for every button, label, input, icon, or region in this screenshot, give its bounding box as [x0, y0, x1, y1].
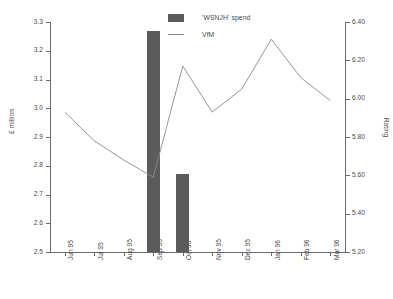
chart-figure: £ million Rating 2.52.62.72.82.93.03.13.…: [0, 0, 393, 299]
vfm-line-path: [65, 39, 331, 177]
legend-item-vfm: VfM: [168, 26, 298, 43]
y-tick-label-left: 3.0: [3, 105, 43, 112]
y-tick-right: [346, 60, 350, 61]
legend-item-spend: 'WSNJH' spend: [168, 9, 298, 26]
x-tick: [212, 252, 213, 256]
y-tick-right: [346, 22, 350, 23]
y-tick-label-left: 2.5: [3, 249, 43, 256]
bar: [176, 174, 189, 252]
y-tick-left: [46, 223, 50, 224]
y-tick-label-left: 2.9: [3, 134, 43, 141]
y-tick-right: [346, 137, 350, 138]
y-tick-left: [46, 195, 50, 196]
y-tick-right: [346, 252, 350, 253]
y-tick-label-right: 6.40: [352, 19, 392, 26]
x-tick-label: Dec 95: [244, 239, 251, 260]
x-tick: [124, 252, 125, 256]
y-tick-left: [46, 80, 50, 81]
y-tick-label-right: 5.60: [352, 172, 392, 179]
y-tick-right: [346, 175, 350, 176]
y-tick-left: [46, 252, 50, 253]
y-tick-label-left: 3.1: [3, 76, 43, 83]
bar: [147, 31, 160, 252]
y-tick-label-right: 5.80: [352, 134, 392, 141]
x-tick-label: Jun 95: [67, 240, 74, 260]
x-tick: [153, 252, 154, 256]
x-tick-label: Aug 95: [126, 239, 133, 260]
x-tick-label: Jul 95: [97, 242, 104, 260]
y-tick-right: [346, 214, 350, 215]
x-tick-label: Feb 96: [303, 239, 310, 260]
y-tick-right: [346, 99, 350, 100]
y-axis-title-right: Rating: [383, 105, 390, 151]
x-tick: [330, 252, 331, 256]
x-tick-label: Nov 95: [215, 239, 222, 260]
x-tick-label: Mar 96: [333, 239, 340, 260]
x-tick: [301, 252, 302, 256]
chart-legend: 'WSNJH' spend VfM: [168, 9, 298, 43]
x-tick: [94, 252, 95, 256]
bar-swatch-icon: [168, 14, 184, 22]
y-tick-left: [46, 137, 50, 138]
y-tick-left: [46, 108, 50, 109]
y-axis-line-left: [50, 22, 51, 253]
legend-label-vfm: VfM: [188, 31, 214, 38]
y-tick-label-left: 2.6: [3, 220, 43, 227]
y-tick-left: [46, 51, 50, 52]
line-swatch-icon: [168, 31, 184, 38]
y-tick-left: [46, 166, 50, 167]
x-tick: [242, 252, 243, 256]
x-tick: [183, 252, 184, 256]
y-tick-label-left: 2.8: [3, 162, 43, 169]
x-tick: [65, 252, 66, 256]
y-tick-label-right: 5.20: [352, 249, 392, 256]
y-tick-label-right: 6.00: [352, 95, 392, 102]
x-tick-label: Jan 96: [274, 240, 281, 260]
legend-label-spend: 'WSNJH' spend: [188, 14, 250, 21]
x-tick: [271, 252, 272, 256]
y-tick-label-left: 2.7: [3, 191, 43, 198]
y-tick-label-left: 3.3: [3, 19, 43, 26]
y-tick-label-right: 6.20: [352, 57, 392, 64]
y-tick-label-left: 3.2: [3, 47, 43, 54]
y-tick-label-right: 5.40: [352, 210, 392, 217]
y-tick-left: [46, 22, 50, 23]
